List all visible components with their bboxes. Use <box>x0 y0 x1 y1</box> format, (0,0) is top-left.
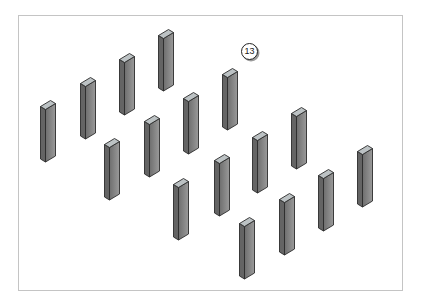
pillar-5 <box>223 69 238 131</box>
pillar-4 <box>41 101 56 163</box>
pillar-10 <box>253 132 268 194</box>
pillar-15 <box>280 194 295 256</box>
pillar-array <box>0 0 423 307</box>
pillar-12 <box>174 179 189 241</box>
pillar-6 <box>184 93 199 155</box>
pillar-7 <box>145 116 160 178</box>
pillar-9 <box>292 108 307 170</box>
figure-canvas: 13 <box>0 0 423 307</box>
pillar-14 <box>319 170 334 232</box>
pillar-3 <box>81 78 96 140</box>
pillar-1 <box>159 30 174 92</box>
pillar-16 <box>240 218 255 280</box>
pillar-13 <box>358 146 373 208</box>
pillar-8 <box>105 139 120 201</box>
pillar-2 <box>120 54 135 116</box>
part-callout-label: 13 <box>244 47 254 56</box>
pillar-11 <box>215 155 230 217</box>
part-callout: 13 <box>241 43 258 60</box>
